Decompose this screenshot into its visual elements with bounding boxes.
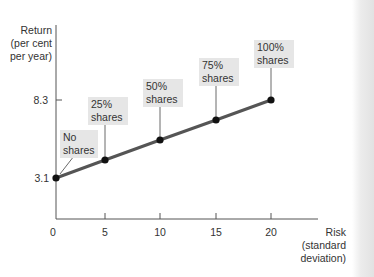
label-line: 25% [91,98,125,111]
x-tick-label: 10 [151,226,169,239]
x-tick-label: 0 [47,226,59,239]
x-tick-label: 15 [207,226,225,239]
x-axis-label-line: Risk [290,226,346,239]
label-no-shares: No shares [60,130,98,158]
y-axis-label-line: per year) [0,50,52,63]
y-axis-label-line: (per cent [0,37,52,50]
label-line: shares [146,93,180,106]
label-line: shares [257,54,291,67]
y-axis-label: Return (per cent per year) [0,24,52,63]
y-tick-label: 3.1 [0,172,49,185]
point-50 [156,136,163,143]
y-axis-label-line: Return [0,24,52,37]
label-line: 75% [202,59,236,72]
label-100-shares: 100% shares [254,40,294,68]
label-line: 50% [146,80,180,93]
x-axis-label-line: (standard [290,239,346,252]
label-50-shares: 50% shares [143,79,183,107]
point-75 [212,116,219,123]
x-axis-label-line: deviation) [290,252,346,265]
label-line: shares [91,111,125,124]
x-tick-label: 5 [99,226,111,239]
point-100 [267,96,274,103]
y-tick-label: 8.3 [0,94,48,107]
label-line: shares [202,72,236,85]
label-line: 100% [257,41,291,54]
label-line: No [63,131,95,144]
label-25-shares: 25% shares [88,97,128,125]
label-line: shares [63,144,95,157]
label-75-shares: 75% shares [199,58,239,86]
point-25 [101,156,108,163]
x-axis-label: Risk (standard deviation) [290,226,346,265]
x-tick-label: 20 [262,226,280,239]
point-no-shares [52,174,59,181]
